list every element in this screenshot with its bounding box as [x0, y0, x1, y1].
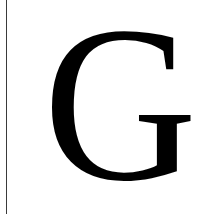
letter-g-glyph: G [43, 4, 197, 204]
vertical-rule-line [6, 0, 7, 214]
